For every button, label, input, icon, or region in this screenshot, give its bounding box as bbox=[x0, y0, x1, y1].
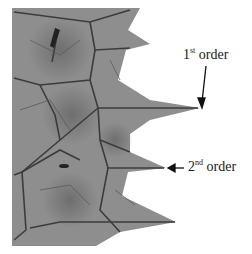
first-order-number: 1 bbox=[183, 47, 190, 62]
first-order-label: 1st order bbox=[183, 46, 228, 63]
first-order-word: order bbox=[199, 47, 229, 62]
second-order-word: order bbox=[207, 159, 237, 174]
first-order-suffix: st bbox=[190, 46, 195, 55]
leaf-image bbox=[0, 0, 252, 254]
leaf-figure: 1st order 2nd order bbox=[0, 0, 252, 254]
second-order-suffix: nd bbox=[195, 158, 203, 167]
second-order-label: 2nd order bbox=[188, 158, 236, 175]
second-order-number: 2 bbox=[188, 159, 195, 174]
